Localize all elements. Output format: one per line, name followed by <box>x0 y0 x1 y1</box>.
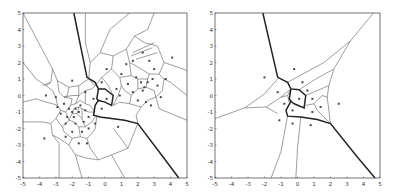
x-tick-label: -4 <box>37 181 43 187</box>
plot-area-left <box>23 13 187 178</box>
x-tick-label: 1 <box>120 181 124 187</box>
site-point <box>132 60 134 62</box>
site-point <box>320 106 322 108</box>
plot-area-right <box>215 13 380 178</box>
y-tick-label: 4 <box>18 27 22 33</box>
x-tick-label: -2 <box>262 181 267 187</box>
y-tick-label: -4 <box>16 159 22 165</box>
site-point <box>145 101 147 103</box>
site-point <box>119 95 121 97</box>
site-point <box>137 99 139 101</box>
site-point <box>127 83 129 85</box>
x-tick-label: 3 <box>345 181 349 187</box>
y-tick-label: -1 <box>16 109 21 115</box>
site-point <box>293 68 295 70</box>
site-point <box>153 68 155 70</box>
y-tick-label: -2 <box>208 126 213 132</box>
voronoi-plot-left: -5-4-3-2-1012345543210-1-2-3-4-5 <box>0 0 198 193</box>
y-tick-label: 1 <box>210 76 214 82</box>
y-tick-label: 2 <box>18 60 22 66</box>
y-tick-label: 3 <box>18 43 22 49</box>
site-point <box>81 131 83 133</box>
site-point <box>264 76 266 78</box>
site-point <box>88 128 90 130</box>
site-point <box>94 123 96 125</box>
site-point <box>311 111 313 113</box>
y-tick-label: -5 <box>16 175 22 181</box>
y-tick-label: 5 <box>18 10 22 16</box>
y-tick-label: -3 <box>16 142 22 148</box>
site-point <box>93 98 95 100</box>
site-point <box>310 124 312 126</box>
voronoi-edges-left <box>23 13 187 178</box>
site-point <box>71 111 73 113</box>
site-point <box>150 104 152 106</box>
site-point <box>43 137 45 139</box>
site-point <box>55 96 57 98</box>
x-tick-label: -1 <box>278 181 283 187</box>
x-tick-label: 5 <box>378 181 382 187</box>
x-tick-label: 5 <box>185 181 189 187</box>
voronoi-plot-right: -5-4-3-2-1012345543210-1-2-3-4-5 <box>192 0 390 193</box>
x-tick-label: 1 <box>312 181 316 187</box>
site-point <box>292 123 294 125</box>
site-point <box>125 63 127 65</box>
y-tick-label: -5 <box>208 175 214 181</box>
site-point <box>142 90 144 92</box>
x-tick-label: -5 <box>20 181 26 187</box>
site-point <box>56 106 58 108</box>
site-point <box>147 81 149 83</box>
x-tick-label: -5 <box>212 181 218 187</box>
x-tick-label: -1 <box>86 181 91 187</box>
site-point <box>132 91 134 93</box>
y-tick-label: -3 <box>208 142 214 148</box>
voronoi-edges-right <box>215 13 373 178</box>
plot-frame-left <box>23 13 187 178</box>
site-point <box>283 103 285 105</box>
site-point <box>135 76 137 78</box>
site-point <box>86 142 88 144</box>
site-point <box>292 109 294 111</box>
site-point <box>45 95 47 97</box>
y-tick-label: -2 <box>16 126 21 132</box>
site-point <box>148 60 150 62</box>
x-tick-label: -3 <box>245 181 251 187</box>
site-point <box>83 121 85 123</box>
site-point <box>165 78 167 80</box>
x-tick-label: -3 <box>53 181 59 187</box>
y-tick-label: 0 <box>18 93 22 99</box>
y-tick-label: 5 <box>210 10 214 16</box>
site-point <box>338 103 340 105</box>
site-point <box>71 80 73 82</box>
y-tick-label: 3 <box>210 43 214 49</box>
site-point <box>60 113 62 115</box>
site-point <box>142 52 144 54</box>
axis-ticks-left: -5-4-3-2-1012345543210-1-2-3-4-5 <box>16 10 190 187</box>
site-point <box>66 116 68 118</box>
y-tick-label: 2 <box>210 60 214 66</box>
site-point <box>78 111 80 113</box>
site-point <box>117 126 119 128</box>
y-tick-label: 1 <box>18 76 22 82</box>
x-tick-label: 4 <box>169 181 173 187</box>
site-point <box>73 116 75 118</box>
site-point <box>152 78 154 80</box>
x-tick-label: 2 <box>329 181 333 187</box>
site-point <box>63 103 65 105</box>
site-point <box>311 98 313 100</box>
site-point <box>120 73 122 75</box>
site-point <box>84 91 86 93</box>
site-point <box>277 91 279 93</box>
site-point <box>78 142 80 144</box>
axis-ticks-right: -5-4-3-2-1012345543210-1-2-3-4-5 <box>208 10 383 187</box>
y-tick-label: 0 <box>210 93 214 99</box>
site-point <box>140 81 142 83</box>
site-point <box>156 85 158 87</box>
site-point <box>74 123 76 125</box>
site-point <box>106 98 108 100</box>
y-tick-label: -1 <box>208 109 213 115</box>
x-tick-label: 2 <box>136 181 140 187</box>
site-point <box>306 90 308 92</box>
y-tick-label: -4 <box>208 159 214 165</box>
site-point <box>160 96 162 98</box>
